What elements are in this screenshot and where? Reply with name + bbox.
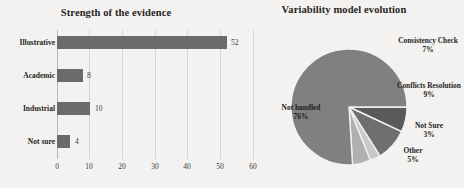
x-tick-label: 20 [113,162,131,171]
pie-label-other: Other 5% [384,146,442,164]
x-tick-label: 0 [48,162,66,171]
pie-label-text: Not handled [282,103,321,112]
pie-label-conflicts-resolution: Conflicts Resolution 9% [394,81,464,99]
bar-chart-title: Strength of the evidence [6,7,226,18]
pie-label-text: Other [404,146,423,155]
pie-chart-title: Variability model evolution [232,4,456,15]
pie-label-not-sure: Not Sure 3% [398,121,460,139]
bar-category-label: Not sure [1,135,55,148]
x-tick-label: 50 [211,162,229,171]
bar-value-label: 4 [75,135,79,148]
pie-label-percent: 76% [265,112,337,121]
pie-label-not-handled: Not handled 76% [265,103,337,121]
pie-label-percent: 3% [398,130,460,139]
bar-chart-panel: Strength of the evidence Illustrative Ac… [0,0,232,188]
pie-label-percent: 7% [393,45,463,54]
bar-category-label: Illustrative [1,36,55,49]
x-tick-label: 30 [146,162,164,171]
bar-item[interactable]: 4 [57,30,253,159]
bar-category-axis: Illustrative Academic Industrial Not sur… [0,30,55,159]
pie-label-text: Not Sure [415,121,443,130]
pie-label-text: Conflicts Resolution [397,81,461,90]
x-tick-label: 40 [178,162,196,171]
figure-root: Strength of the evidence Illustrative Ac… [0,0,464,188]
x-tick-label: 10 [80,162,98,171]
pie-label-percent: 9% [394,90,464,99]
pie-label-percent: 5% [384,155,442,164]
bar-category-label: Academic [1,69,55,82]
pie-label-text: Consistency Check [398,36,458,45]
bar-plot-area: 52 8 10 4 [57,30,253,159]
bar-category-label: Industrial [1,102,55,115]
pie-label-consistency-check: Consistency Check 7% [393,36,463,54]
pie-chart-panel: Variability model evolution Consistency … [232,0,464,188]
bar-rect[interactable] [57,135,70,148]
